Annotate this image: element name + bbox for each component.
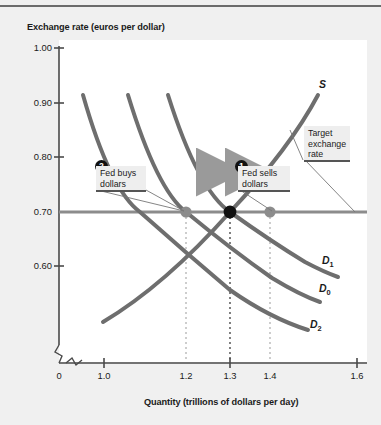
y-tick-label-0-60: 0.60: [22, 260, 52, 271]
demand-curve-d0: [128, 95, 320, 302]
y-axis: [54, 46, 64, 363]
chart-canvas: [0, 0, 381, 425]
x-tick-label-1-2: 1.2: [171, 370, 201, 381]
x-tick-label-1-0: 1.0: [89, 370, 119, 381]
callout-fed-sells-underline: [238, 190, 290, 192]
x-tick-label-0: 0: [44, 370, 74, 381]
y-axis-title: Exchange rate (euros per dollar): [27, 22, 165, 32]
x-axis-title: Quantity (trillions of dollars per day): [144, 397, 298, 407]
demand-curve-d0-subscript: 0: [327, 288, 331, 297]
exchange-rate-figure: Exchange rate (euros per dollar) Quantit…: [0, 0, 381, 425]
supply-curve-label: S: [319, 78, 326, 90]
demand-curve-d2-subscript: 2: [318, 324, 322, 333]
x-tick-label-1-3: 1.3: [215, 370, 245, 381]
demand-curve-d0-letter: D: [319, 282, 327, 294]
demand-curve-d0-label: D0: [319, 282, 331, 297]
demand-curve-d1-subscript: 1: [330, 260, 334, 269]
x-tick-label-1-6: 1.6: [342, 370, 372, 381]
demand-curve-d1-letter: D: [322, 254, 330, 266]
y-tick-label-0-80: 0.80: [22, 151, 52, 162]
equilibrium-dot-1-2: [180, 206, 191, 217]
equilibrium-dot-1-4: [264, 206, 275, 217]
x-axis: [59, 358, 367, 368]
y-tick-label-1-00: 1.00: [22, 42, 52, 53]
callout-fed-sells-dollars: Fed sells dollars: [238, 166, 290, 191]
demand-curve-d2-letter: D: [310, 318, 318, 330]
callout-target-underline: [304, 160, 350, 162]
x-tick-label-1-4: 1.4: [255, 370, 285, 381]
callout-fed-buys-underline: [96, 190, 146, 192]
y-tick-label-0-90: 0.90: [22, 97, 52, 108]
demand-curve-d2-label: D2: [310, 318, 322, 333]
equilibrium-dot-1-3: [224, 206, 237, 219]
demand-curve-d1-label: D1: [322, 254, 334, 269]
y-tick-label-0-70: 0.70: [22, 206, 52, 217]
callout-target-exchange-rate: Target exchange rate: [304, 126, 350, 162]
callout-fed-buys-dollars: Fed buys dollars: [96, 166, 146, 191]
